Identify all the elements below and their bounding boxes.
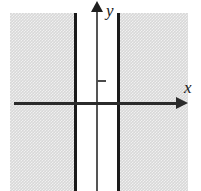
y-axis-arrowhead-icon [91,1,103,12]
y-axis-line [96,10,98,191]
x-axis-arrowhead-icon [176,97,188,109]
y-axis-tick-mark [97,80,106,82]
y-axis-label: y [106,2,114,19]
x-axis-line [14,102,180,105]
x-axis-label: x [184,79,192,96]
inequality-graph-figure: y x [0,0,201,191]
